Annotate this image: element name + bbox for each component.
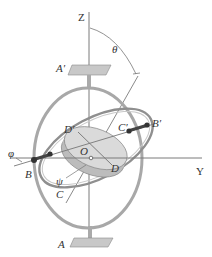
a-prime-bearing <box>87 75 91 87</box>
z-axis-label: Z <box>78 11 85 23</box>
c-prime-label: C′ <box>118 121 128 133</box>
theta-label: θ <box>112 43 118 55</box>
gyroscope-diagram: Z θ A′ Y φ ψ O B B′ C C <box>0 0 212 257</box>
a-prime-plate <box>68 65 111 75</box>
phi-arc <box>16 158 22 162</box>
phi-label: φ <box>8 147 14 159</box>
origin-label: O <box>80 145 88 157</box>
b-label: B <box>25 168 32 180</box>
psi-label: ψ <box>56 175 63 187</box>
a-bearing <box>88 226 92 239</box>
origin-point <box>89 156 93 160</box>
a-plate <box>70 238 113 247</box>
d-label: D <box>110 162 119 174</box>
theta-tick <box>133 73 140 74</box>
a-label: A <box>57 238 65 250</box>
a-prime-label: A′ <box>55 62 66 74</box>
y-axis-label: Y <box>196 165 204 177</box>
c-label: C <box>56 188 64 200</box>
b-prime-label: B′ <box>152 117 162 129</box>
d-prime-label: D′ <box>63 123 75 135</box>
